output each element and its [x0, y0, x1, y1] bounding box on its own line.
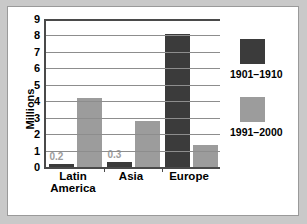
y-tick-label-0: 0	[22, 162, 40, 173]
bar-latin-america-0[interactable]	[49, 164, 74, 167]
gridline-8	[46, 35, 220, 36]
category-label-2: Europe	[160, 170, 218, 182]
gridline-2	[46, 134, 220, 135]
bar-asia-0[interactable]	[107, 162, 132, 167]
gridline-1	[46, 151, 220, 152]
y-tick-label-4: 4	[22, 96, 40, 107]
y-tick-label-6: 6	[22, 63, 40, 74]
legend-label: 1901–1910	[230, 68, 296, 80]
category-label-1: Asia	[102, 170, 160, 182]
legend-label: 1991–2000	[230, 126, 296, 138]
gridline-6	[46, 68, 220, 69]
y-tick-label-8: 8	[22, 30, 40, 41]
gridline-7	[46, 52, 220, 53]
y-tick-label-1: 1	[22, 145, 40, 156]
y-tick-label-5: 5	[22, 79, 40, 90]
chart-panel: Millions 9876543210 0.20.3 Latin America…	[7, 6, 299, 216]
y-axis-tick-labels: 9876543210	[22, 19, 40, 167]
y-tick-label-7: 7	[22, 46, 40, 57]
bars-layer: 0.20.3	[46, 19, 220, 167]
y-tick-label-3: 3	[22, 112, 40, 123]
category-label-0: Latin America	[44, 170, 102, 194]
gridline-3	[46, 118, 220, 119]
gridline-5	[46, 85, 220, 86]
y-tick-label-2: 2	[22, 129, 40, 140]
bar-latin-america-1[interactable]	[77, 98, 102, 167]
bar-asia-1[interactable]	[135, 121, 160, 167]
bar-value-label: 0.2	[50, 152, 64, 162]
x-axis-category-labels: Latin AmericaAsiaEurope	[44, 170, 220, 210]
legend-swatch-dark	[240, 39, 265, 64]
y-tick-label-9: 9	[22, 14, 40, 25]
gridline-9	[46, 19, 220, 21]
gridline-4	[46, 101, 220, 102]
bar-chart: Millions 9876543210 0.20.3 Latin America…	[8, 7, 298, 215]
chart-legend: 1901–19101991–2000	[230, 39, 296, 169]
bar-value-label: 0.3	[108, 150, 122, 160]
legend-swatch-light	[240, 97, 265, 122]
plot-area: 0.20.3	[44, 19, 220, 169]
bar-europe-1[interactable]	[193, 145, 218, 167]
